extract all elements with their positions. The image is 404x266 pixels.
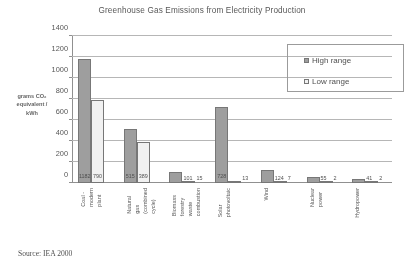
- bar-low-range: 389: [137, 142, 150, 183]
- x-axis-category-label: Wind: [263, 188, 271, 201]
- bar-low-range: 2: [320, 181, 333, 183]
- bar-value-label: 7: [288, 175, 291, 181]
- bar-value-label: 2: [334, 175, 337, 181]
- y-axis-tick-mark: [69, 98, 72, 99]
- bar-value-label: 15: [196, 175, 202, 181]
- bar-low-range: 13: [228, 181, 241, 183]
- bar-group: 515389Natural gas (combined cycle): [124, 36, 150, 183]
- y-axis-tick-mark: [69, 77, 72, 78]
- legend-swatch-low-range: [304, 79, 309, 84]
- bar-value-label: 790: [92, 173, 103, 179]
- x-axis-category-label: Natural gas (combined cycle): [126, 188, 158, 214]
- bar-high-range: 41: [352, 179, 365, 183]
- bar-low-range: 790: [91, 100, 104, 183]
- y-axis-tick-mark: [69, 182, 72, 183]
- x-axis-category-label: Nuclear power: [309, 188, 325, 207]
- legend-label: High range: [312, 56, 351, 65]
- y-axis-tick-label: 1400: [52, 23, 68, 32]
- bar-value-label: 1182: [79, 173, 90, 179]
- bar-high-range: 515: [124, 129, 137, 183]
- bar-value-label: 2: [379, 175, 382, 181]
- legend-label: Low range: [312, 77, 349, 86]
- legend-swatch-high-range: [304, 58, 309, 63]
- bar-low-range: 2: [365, 181, 378, 183]
- y-axis-tick-label: 400: [56, 128, 68, 137]
- y-axis-tick-label: 200: [56, 149, 68, 158]
- bar-group: 72813Solar photovoltaic: [215, 36, 241, 183]
- y-axis-tick-label: 1200: [52, 44, 68, 53]
- chart-title: Greenhouse Gas Emissions from Electricit…: [0, 6, 404, 15]
- y-axis-tick-mark: [69, 161, 72, 162]
- y-axis-tick-label: 0: [64, 170, 68, 179]
- y-axis-title: grams CO₂ equivalent / kWh: [6, 92, 58, 117]
- source-note: Source: IEA 2000: [18, 249, 72, 258]
- y-axis-tick-mark: [69, 56, 72, 57]
- bar-high-range: 728: [215, 107, 228, 183]
- y-axis-tick-label: 600: [56, 107, 68, 116]
- bar-group: 1247Wind: [261, 36, 287, 183]
- y-axis-tick-mark: [69, 35, 72, 36]
- bar-value-label: 389: [138, 173, 149, 179]
- bar-high-range: 55: [307, 177, 320, 183]
- x-axis-category-label: Solar photovoltaic: [217, 188, 233, 217]
- bar-value-label: 728: [216, 173, 227, 179]
- chart-figure: Greenhouse Gas Emissions from Electricit…: [0, 0, 404, 266]
- y-axis-tick-label: 800: [56, 86, 68, 95]
- bar-group: 1182790Coal - modern plant: [78, 36, 104, 183]
- bar-high-range: 1182: [78, 59, 91, 183]
- y-axis-title-line-1: grams CO₂: [6, 92, 58, 100]
- x-axis-category-label: Biomass forestry waste combustion: [171, 188, 203, 216]
- bar-high-range: 101: [169, 172, 182, 183]
- y-axis-title-line-3: kWh: [6, 109, 58, 117]
- y-axis-title-line-2: equivalent /: [6, 100, 58, 108]
- y-axis-tick-mark: [69, 140, 72, 141]
- x-axis-category-label: Coal - modern plant: [80, 188, 104, 207]
- chart-legend: High rangeLow range: [287, 44, 404, 92]
- legend-item: High range: [288, 51, 403, 69]
- bar-high-range: 124: [261, 170, 274, 183]
- legend-item: Low range: [288, 72, 403, 90]
- y-axis-tick-label: 1000: [52, 65, 68, 74]
- x-axis-category-label: Hydropower: [354, 188, 362, 218]
- bar-low-range: 15: [182, 181, 195, 183]
- y-axis-tick-mark: [69, 119, 72, 120]
- bar-low-range: 7: [274, 181, 287, 183]
- bar-value-label: 515: [125, 173, 136, 179]
- bar-group: 10115Biomass forestry waste combustion: [169, 36, 195, 183]
- bar-value-label: 13: [242, 175, 248, 181]
